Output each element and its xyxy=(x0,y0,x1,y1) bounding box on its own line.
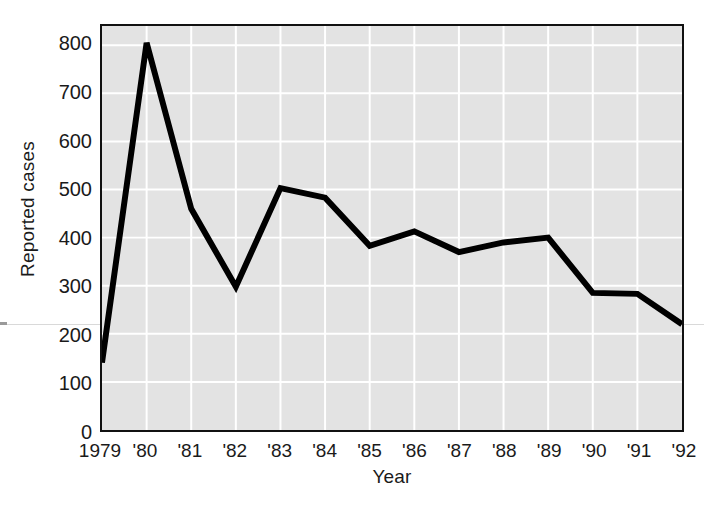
x-tick-label: '92 xyxy=(672,440,697,462)
x-tick-label: '80 xyxy=(133,440,158,462)
x-tick-label: '84 xyxy=(312,440,337,462)
x-tick-label: '89 xyxy=(537,440,562,462)
x-axis-title: Year xyxy=(100,466,684,488)
x-tick-label: '83 xyxy=(267,440,292,462)
x-tick-label: '81 xyxy=(177,440,202,462)
x-tick-label: '87 xyxy=(447,440,472,462)
x-tick-label: '82 xyxy=(222,440,247,462)
x-axis-tick-labels: 1979'80'81'82'83'84'85'86'87'88'89'90'91… xyxy=(0,0,704,510)
x-tick-label: '86 xyxy=(402,440,427,462)
chart-figure: Reported cases 0100200300400500600700800… xyxy=(0,0,704,510)
x-tick-label: '88 xyxy=(492,440,517,462)
x-tick-label: 1979 xyxy=(79,440,121,462)
x-tick-label: '90 xyxy=(582,440,607,462)
x-tick-label: '91 xyxy=(627,440,652,462)
x-tick-label: '85 xyxy=(357,440,382,462)
